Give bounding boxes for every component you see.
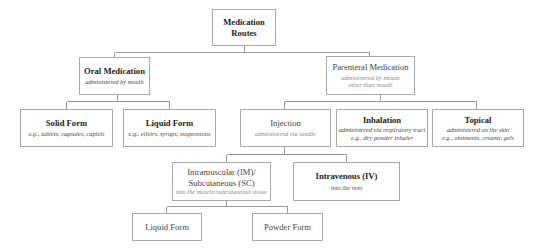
node-injection-liquid-form: Liquid Form (132, 213, 202, 241)
node-medication-routes: Medication Routes (212, 9, 276, 46)
node-title: Powder Form (264, 222, 311, 233)
node-oral-medication: Oral Medication administered by mouth (79, 57, 150, 95)
node-topical: Topical administered on the skin e.g., o… (432, 109, 524, 147)
node-title: Topical (465, 115, 492, 126)
node-title: Liquid Form (145, 222, 189, 233)
node-title: Oral Medication (84, 66, 145, 77)
node-title: Intravenous (IV) (316, 171, 378, 182)
node-subtitle: administered on the skin (447, 126, 509, 134)
node-subtitle: e.g., ointments, creams, gels (442, 134, 514, 142)
node-title: Inhalation (363, 115, 401, 126)
node-title: Injection (270, 118, 301, 129)
node-subtitle: into the muscle/subcutaneous tissue (176, 188, 267, 196)
node-title: Intramuscular (IM)/ (187, 167, 256, 178)
node-subtitle: e.g., dry powder inhaler (351, 134, 413, 142)
node-subtitle: administered via needle (255, 130, 316, 138)
node-subtitle: into the vein (331, 184, 363, 192)
node-title: Liquid Form (146, 118, 194, 129)
node-subtitle: e.g., elixirs, syrups, suspensions (128, 130, 210, 138)
node-title: Routes (231, 28, 256, 39)
node-liquid-form: Liquid Form e.g., elixirs, syrups, suspe… (123, 109, 216, 147)
node-solid-form: Solid Form e.g., tablets, capsules, capl… (20, 109, 113, 147)
node-title: Subcutaneous (SC) (188, 178, 254, 189)
node-title: Medication (223, 17, 265, 28)
node-injection-powder-form: Powder Form (252, 213, 323, 241)
node-intravenous: Intravenous (IV) into the vein (293, 162, 400, 201)
node-title: Solid Form (46, 118, 87, 129)
node-parenteral-medication: Parenteral Medication administered by me… (326, 56, 415, 95)
node-subtitle: administered by means (341, 74, 400, 82)
node-subtitle: other than mouth (348, 81, 392, 89)
node-injection: Injection administered via needle (240, 109, 331, 147)
node-subtitle: e.g., tablets, capsules, caplets (29, 130, 105, 138)
node-inhalation: Inhalation administered via respiratory … (336, 109, 428, 147)
medication-routes-diagram: Medication Routes Oral Medication admini… (0, 0, 540, 252)
node-subtitle: administered via respiratory tract (339, 126, 425, 134)
node-im-sc: Intramuscular (IM)/ Subcutaneous (SC) in… (172, 162, 271, 201)
node-subtitle: administered by mouth (85, 78, 143, 86)
node-title: Parenteral Medication (332, 62, 408, 73)
